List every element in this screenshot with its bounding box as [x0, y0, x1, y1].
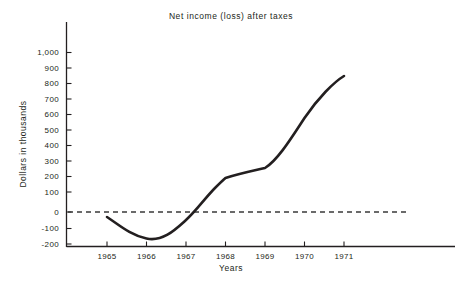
- y-tick-label: 1,000: [13, 48, 59, 57]
- y-tick-label: 200: [13, 172, 59, 181]
- x-tick-label: 1966: [127, 252, 167, 261]
- x-tick-label: 1967: [166, 252, 206, 261]
- y-axis-ticks: [67, 53, 72, 245]
- x-tick-label: 1971: [324, 252, 364, 261]
- y-tick-label: 100: [13, 188, 59, 197]
- chart-plot-area: [0, 0, 462, 289]
- y-tick-label: 800: [13, 79, 59, 88]
- y-tick-label: -100: [13, 224, 59, 233]
- x-tick-label: 1970: [285, 252, 325, 261]
- y-tick-label: 600: [13, 110, 59, 119]
- chart-title: Net income (loss) after taxes: [0, 11, 462, 21]
- x-tick-label: 1968: [206, 252, 246, 261]
- y-tick-label: 400: [13, 141, 59, 150]
- y-tick-label: 0: [13, 208, 59, 217]
- y-tick-label: 900: [13, 64, 59, 73]
- x-tick-label: 1969: [245, 252, 285, 261]
- x-axis-ticks: [107, 242, 344, 247]
- chart-figure: Net income (loss) after taxes Dollars in…: [0, 0, 462, 289]
- x-axis-title: Years: [0, 263, 462, 273]
- x-tick-label: 1965: [87, 252, 127, 261]
- y-tick-label: -200: [13, 240, 59, 249]
- y-tick-label: 300: [13, 157, 59, 166]
- y-tick-label: 700: [13, 95, 59, 104]
- y-tick-label: 500: [13, 126, 59, 135]
- data-series-line: [107, 76, 344, 239]
